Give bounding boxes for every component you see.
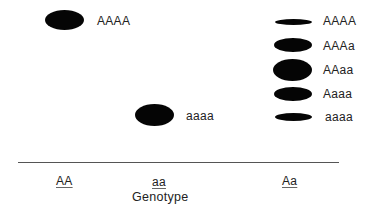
- band-label: aaaa: [186, 110, 214, 122]
- band-label: AAAA: [97, 15, 130, 27]
- axis-baseline: [18, 162, 339, 163]
- band-het-AAaa: [273, 59, 312, 81]
- genotype-label-AA: AA: [56, 175, 73, 187]
- genotype-label-aa: aa: [152, 176, 166, 188]
- band-aa-lane-aaaa: [135, 104, 174, 126]
- band-label: AAaa: [323, 64, 354, 76]
- band-aa-lane-AAAA: [45, 10, 84, 30]
- genotype-label-Aa: Aa: [282, 175, 297, 187]
- band-label: aaaa: [325, 111, 353, 123]
- axis-title: Genotype: [132, 191, 189, 204]
- band-label: AAAA: [323, 15, 356, 27]
- band-het-AAAA: [275, 19, 312, 25]
- band-het-AAAa: [274, 38, 312, 52]
- band-label: AAAa: [323, 40, 355, 52]
- band-het-Aaaa: [274, 87, 312, 101]
- band-label: Aaaa: [323, 88, 352, 100]
- band-het-aaaa: [275, 113, 312, 121]
